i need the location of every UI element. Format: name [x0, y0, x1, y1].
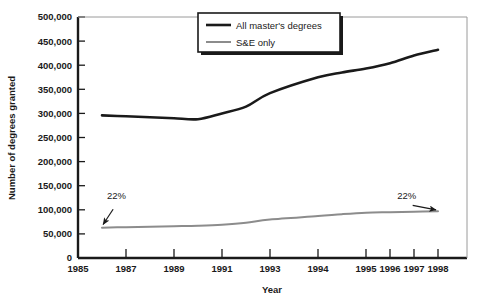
legend-label: All master's degrees [236, 20, 322, 31]
y-tick-label: 300,000 [38, 108, 72, 119]
x-tick-label: 1995 [355, 263, 377, 274]
y-tick-label: 500,000 [38, 11, 72, 22]
x-axis-tick-labels: 1985198719891991199319941995199619971998 [67, 263, 448, 274]
x-tick-label: 1985 [67, 263, 89, 274]
x-tick-label: 1989 [163, 263, 184, 274]
x-tick-label: 1996 [379, 263, 400, 274]
line-chart: 050,000100,000150,000200,000250,000300,0… [0, 0, 481, 303]
y-tick-label: 450,000 [38, 36, 72, 47]
x-axis-title: Year [262, 284, 282, 295]
x-tick-label: 1998 [427, 263, 448, 274]
x-tick-label: 1997 [403, 263, 424, 274]
y-tick-label: 0 [67, 252, 72, 263]
x-tick-label: 1991 [211, 263, 233, 274]
y-tick-label: 100,000 [38, 204, 72, 215]
annotation-label: 22% [397, 190, 417, 201]
legend-label: S&E only [236, 37, 275, 48]
y-axis-tick-labels: 050,000100,000150,000200,000250,000300,0… [38, 11, 72, 263]
legend: All master's degrees S&E only [198, 13, 343, 55]
x-tick-label: 1987 [115, 263, 136, 274]
x-tick-label: 1993 [259, 263, 280, 274]
y-axis-title: Number of degrees granted [6, 76, 17, 200]
y-tick-label: 150,000 [38, 180, 72, 191]
y-tick-label: 200,000 [38, 156, 72, 167]
annotation-label: 22% [107, 190, 127, 201]
chart-container: 050,000100,000150,000200,000250,000300,0… [0, 0, 481, 303]
x-tick-label: 1994 [307, 263, 329, 274]
y-tick-label: 400,000 [38, 60, 72, 71]
y-tick-label: 50,000 [43, 228, 72, 239]
y-tick-label: 350,000 [38, 84, 72, 95]
y-tick-label: 250,000 [38, 132, 72, 143]
